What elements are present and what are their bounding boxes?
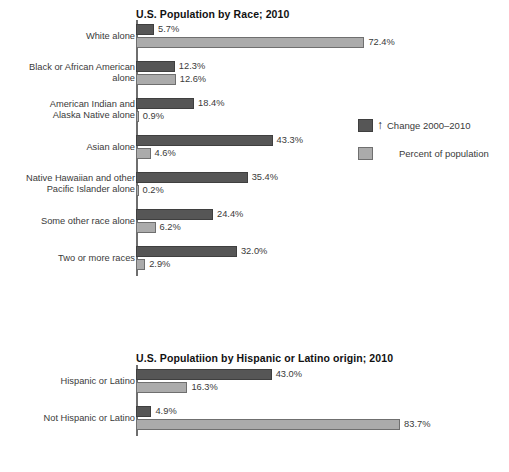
bar-percent — [136, 419, 400, 430]
legend-swatch-percent-icon — [358, 147, 373, 160]
bar-group: Some other race alone24.4%6.2% — [0, 209, 509, 233]
bar-value-label: 2.9% — [149, 258, 170, 271]
bar-percent — [136, 111, 139, 122]
bar-value-label: 12.3% — [179, 60, 205, 73]
bar-row: 32.0% — [0, 246, 509, 257]
bar-row: 4.9% — [0, 406, 509, 417]
bar-group: Black or African Americanalone12.3%12.6% — [0, 61, 509, 85]
bar-value-label: 4.9% — [155, 405, 176, 418]
bar-row: 5.7% — [0, 24, 509, 35]
bar-percent — [136, 382, 187, 393]
bar-row: 24.4% — [0, 209, 509, 220]
bar-value-label: 72.4% — [368, 36, 394, 49]
up-arrow-icon: ↑ — [377, 118, 383, 133]
bar-row: 12.6% — [0, 74, 509, 85]
bar-percent — [136, 259, 145, 270]
bar-value-label: 35.4% — [252, 171, 278, 184]
bar-row: 83.7% — [0, 419, 509, 430]
bar-row: 6.2% — [0, 222, 509, 233]
bar-change — [136, 209, 213, 220]
bar-group: Native Hawaiian and otherPacific Islande… — [0, 172, 509, 196]
legend-swatch-change-icon — [358, 119, 373, 132]
bar-group: Hispanic or Latino43.0%16.3% — [0, 369, 509, 393]
bar-value-label: 12.6% — [180, 73, 206, 86]
chart-population-by-race: U.S. Population by Race; 2010 White alon… — [0, 0, 509, 345]
chart-legend: ↑ Change 2000–2010 Percent of population — [358, 118, 508, 174]
bar-percent — [136, 222, 156, 233]
bar-change — [136, 135, 273, 146]
bar-group: Two or more races32.0%2.9% — [0, 246, 509, 270]
bar-change — [136, 406, 151, 417]
legend-label-change: Change 2000–2010 — [387, 118, 470, 133]
bar-row: 0.2% — [0, 185, 509, 196]
bar-change — [136, 98, 194, 109]
bar-group-list-hispanic: Hispanic or Latino43.0%16.3%Not Hispanic… — [0, 369, 509, 430]
bar-value-label: 83.7% — [404, 418, 430, 431]
bar-row: 43.0% — [0, 369, 509, 380]
bar-percent — [136, 74, 176, 85]
bar-row: 12.3% — [0, 61, 509, 72]
bar-group: Not Hispanic or Latino4.9%83.7% — [0, 406, 509, 430]
bar-value-label: 18.4% — [198, 97, 224, 110]
plot-area-hispanic: Hispanic or Latino43.0%16.3%Not Hispanic… — [0, 369, 509, 443]
bar-row: 18.4% — [0, 98, 509, 109]
bar-value-label: 32.0% — [241, 245, 267, 258]
bar-change — [136, 246, 237, 257]
bar-value-label: 4.6% — [155, 147, 176, 160]
bar-change — [136, 24, 154, 35]
bar-change — [136, 61, 175, 72]
bar-row: 72.4% — [0, 37, 509, 48]
bar-group: White alone5.7%72.4% — [0, 24, 509, 48]
chart-title-hispanic: U.S. Populatiion by Hispanic or Latino o… — [136, 352, 476, 364]
bar-value-label: 43.3% — [277, 134, 303, 147]
bar-value-label: 0.9% — [143, 110, 164, 123]
bar-value-label: 43.0% — [276, 368, 302, 381]
bar-change — [136, 369, 272, 380]
legend-item-percent: Percent of population — [358, 146, 508, 161]
chart-title-race: U.S. Population by Race; 2010 — [136, 8, 476, 20]
bar-percent — [136, 148, 151, 159]
bar-percent — [136, 37, 364, 48]
bar-row: 2.9% — [0, 259, 509, 270]
bar-row: 16.3% — [0, 382, 509, 393]
bar-value-label: 24.4% — [217, 208, 243, 221]
bar-value-label: 6.2% — [160, 221, 181, 234]
bar-value-label: 5.7% — [158, 23, 179, 36]
chart-population-by-hispanic-origin: U.S. Populatiion by Hispanic or Latino o… — [0, 345, 509, 472]
bar-change — [136, 172, 248, 183]
bar-percent — [136, 185, 139, 196]
legend-label-percent: Percent of population — [399, 146, 489, 161]
bar-value-label: 0.2% — [143, 184, 164, 197]
legend-item-change: ↑ Change 2000–2010 — [358, 118, 508, 133]
bar-value-label: 16.3% — [191, 381, 217, 394]
